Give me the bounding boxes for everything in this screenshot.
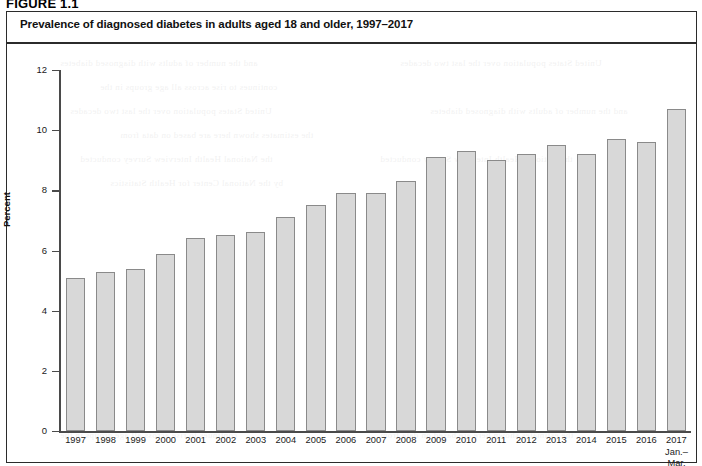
bar xyxy=(396,181,415,431)
x-axis-tick-label: 1999 xyxy=(121,435,151,447)
y-axis-tick xyxy=(52,371,59,372)
bar xyxy=(216,235,235,431)
y-axis-tick-label: 12 xyxy=(7,64,47,75)
x-axis-tick-label: 2016 xyxy=(631,435,661,447)
bar xyxy=(366,193,385,431)
bar xyxy=(336,193,355,431)
bar xyxy=(186,238,205,431)
bar xyxy=(276,217,295,431)
x-axis-tick-label: 2008 xyxy=(391,435,421,447)
bar xyxy=(667,109,686,431)
bar xyxy=(517,154,536,431)
x-axis-tick-label: 2010 xyxy=(451,435,481,447)
bar xyxy=(306,205,325,431)
y-axis-tick xyxy=(52,311,59,312)
bar xyxy=(457,151,476,431)
x-axis-tick-label: 2007 xyxy=(361,435,391,447)
x-axis-tick-label: 2009 xyxy=(421,435,451,447)
x-axis-tick-label: 2014 xyxy=(571,435,601,447)
y-axis-title: Percent xyxy=(1,192,12,227)
y-axis-tick xyxy=(52,251,59,252)
y-axis-tick-label: 10 xyxy=(7,124,47,135)
bar xyxy=(66,278,85,431)
bar xyxy=(126,269,145,431)
x-axis-tick-label: 2013 xyxy=(541,435,571,447)
y-axis-tick-label: 2 xyxy=(7,365,47,376)
bar-series xyxy=(61,70,692,431)
x-axis-tick-label: 2015 xyxy=(601,435,631,447)
bar xyxy=(547,145,566,431)
bar xyxy=(637,142,656,431)
y-axis-tick xyxy=(52,130,59,131)
x-axis-tick-label: 2002 xyxy=(211,435,241,447)
x-axis-tick-label: 2003 xyxy=(241,435,271,447)
x-axis-tick-label: 2001 xyxy=(181,435,211,447)
bar xyxy=(487,160,506,431)
y-axis-tick-label: 4 xyxy=(7,305,47,316)
x-axis-tick-label: 2000 xyxy=(151,435,181,447)
bar xyxy=(246,232,265,431)
figure-frame: Prevalence of diagnosed diabetes in adul… xyxy=(6,11,697,463)
figure-title: Prevalence of diagnosed diabetes in adul… xyxy=(20,18,413,30)
x-axis-tick-label: 2011 xyxy=(481,435,511,447)
figure-number: FIGURE 1.1 xyxy=(6,0,79,11)
y-axis-tick xyxy=(52,70,59,71)
y-axis-tick-label: 0 xyxy=(7,425,47,436)
x-axis-tick-label: 2017 Jan.– Mar. xyxy=(661,435,691,466)
x-axis-tick-labels: 1997199819992000200120022003200420052006… xyxy=(61,435,692,466)
x-axis-tick-label: 2004 xyxy=(271,435,301,447)
y-axis-tick-label: 6 xyxy=(7,245,47,256)
bar xyxy=(156,254,175,431)
bar xyxy=(96,272,115,431)
x-axis-line xyxy=(59,431,691,433)
x-axis-tick-label: 1997 xyxy=(61,435,91,447)
bar xyxy=(607,139,626,431)
y-axis-tick xyxy=(52,431,59,432)
x-axis-tick-label: 2006 xyxy=(331,435,361,447)
x-axis-tick-label: 2005 xyxy=(301,435,331,447)
bar xyxy=(577,154,596,431)
y-axis-tick xyxy=(52,190,59,191)
x-axis-tick-label: 2012 xyxy=(511,435,541,447)
bar xyxy=(426,157,445,431)
x-axis-tick-label: 1998 xyxy=(91,435,121,447)
chart-plot-area: Percent 024681012 1997199819992000200120… xyxy=(7,42,696,462)
y-axis-tick-label: 8 xyxy=(7,184,47,195)
